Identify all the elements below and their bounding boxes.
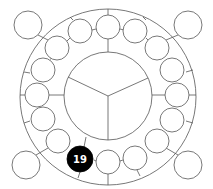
- corner-node-top-right[interactable]: [174, 11, 202, 39]
- ring-node[interactable]: [45, 36, 69, 60]
- ring-node[interactable]: [46, 129, 70, 153]
- ring-node[interactable]: [96, 15, 120, 39]
- ring-node[interactable]: [160, 58, 184, 82]
- ring-nodes: [25, 15, 189, 174]
- ring-node[interactable]: [160, 108, 184, 132]
- ring-node[interactable]: [68, 19, 92, 43]
- ring-node[interactable]: [31, 107, 55, 131]
- ring-node[interactable]: [123, 146, 147, 170]
- ring-node[interactable]: [25, 83, 49, 107]
- ring-node[interactable]: [165, 83, 189, 107]
- corner-node-bottom-left[interactable]: [12, 151, 40, 179]
- ring-node[interactable]: [123, 19, 147, 43]
- highlighted-node-label: 19: [73, 154, 87, 165]
- highlighted-node[interactable]: 19: [67, 146, 93, 172]
- inner-circle-group: [64, 52, 152, 140]
- ring-node[interactable]: [96, 150, 120, 174]
- ring-diagram: 19: [0, 0, 213, 189]
- ring-node[interactable]: [145, 36, 169, 60]
- ring-node[interactable]: [31, 58, 55, 82]
- corner-node-bottom-right[interactable]: [174, 151, 202, 179]
- corner-node-top-left[interactable]: [14, 11, 42, 39]
- ring-node[interactable]: [145, 129, 169, 153]
